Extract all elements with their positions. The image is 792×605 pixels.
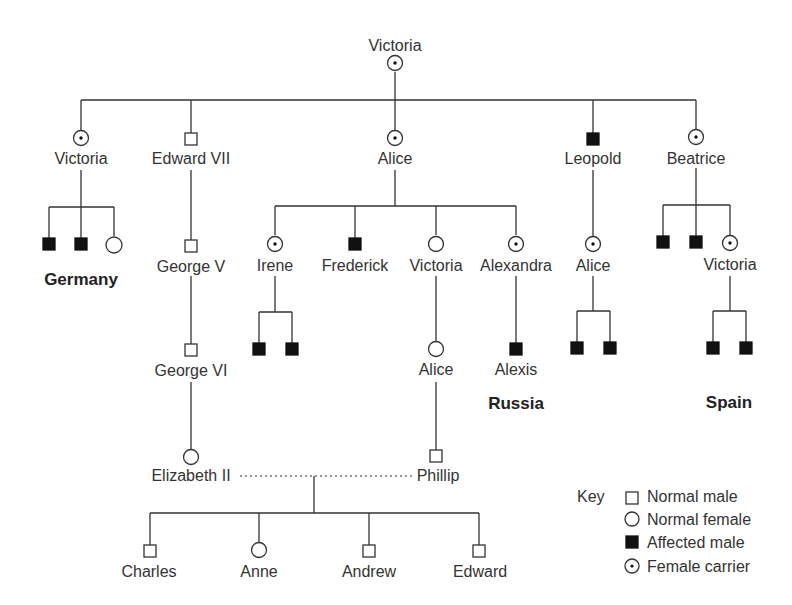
- label-frederick: Frederick: [322, 257, 390, 274]
- label-alexis: Alexis: [495, 361, 538, 378]
- irene-affected-male-2-symbol: [286, 343, 298, 355]
- person-george-vi-symbol: [185, 344, 197, 356]
- germany-normal-female-symbol: [106, 237, 122, 253]
- legend-normal-male-icon: [626, 492, 638, 504]
- person-alice-g1-symbol: [388, 131, 403, 146]
- germany-affected-male-1-symbol: [43, 238, 55, 250]
- region-spain: Spain: [706, 393, 752, 412]
- legend: Key Normal male Normal female Affected m…: [577, 488, 751, 575]
- spain-affected-male-1-symbol: [657, 236, 669, 248]
- label-charles: Charles: [121, 563, 176, 580]
- label-irene: Irene: [257, 257, 294, 274]
- legend-female-carrier-label: Female carrier: [647, 558, 751, 575]
- person-victoria-spain-symbol: [723, 236, 738, 251]
- person-frederick-symbol: [349, 238, 361, 250]
- label-alice-g3: Alice: [419, 361, 454, 378]
- person-phillip-symbol: [430, 450, 442, 462]
- person-alexis-symbol: [510, 343, 522, 355]
- label-george-v: George V: [157, 258, 226, 275]
- label-victoria-g2: Victoria: [409, 257, 462, 274]
- legend-affected-male-icon: [626, 536, 638, 548]
- spain-grandson-2-symbol: [740, 342, 752, 354]
- label-edward-vii: Edward VII: [152, 150, 230, 167]
- person-leopold-symbol: [587, 133, 599, 145]
- label-anne: Anne: [240, 563, 277, 580]
- label-phillip: Phillip: [417, 467, 460, 484]
- person-beatrice-symbol: [689, 130, 704, 145]
- person-alice-g2-symbol: [586, 237, 601, 252]
- pedigree-chart: Victoria Victoria Edward VII Alice Leopo…: [0, 0, 792, 605]
- person-alexandra-symbol: [509, 237, 524, 252]
- label-victoria-root: Victoria: [368, 37, 421, 54]
- legend-normal-female-icon: [625, 512, 639, 526]
- region-russia: Russia: [488, 394, 544, 413]
- person-victoria-root-symbol: [388, 56, 403, 71]
- alice-affected-male-2-symbol: [604, 342, 616, 354]
- label-edward: Edward: [453, 563, 507, 580]
- label-alice-g1: Alice: [378, 150, 413, 167]
- pedigree-svg: Victoria Victoria Edward VII Alice Leopo…: [0, 0, 792, 605]
- spain-affected-male-2-symbol: [690, 236, 702, 248]
- label-victoria-g1: Victoria: [54, 150, 107, 167]
- legend-normal-male-label: Normal male: [647, 488, 738, 505]
- region-germany: Germany: [44, 270, 118, 289]
- label-alexandra: Alexandra: [480, 257, 552, 274]
- legend-carrier-dot: [630, 564, 633, 567]
- alice-affected-male-1-symbol: [571, 342, 583, 354]
- person-victoria-g1-symbol: [74, 131, 89, 146]
- person-irene-symbol: [268, 237, 283, 252]
- germany-affected-male-2-symbol: [75, 238, 87, 250]
- person-edward-vii-symbol: [185, 133, 197, 145]
- person-victoria-g2-symbol: [429, 237, 444, 252]
- person-edward-symbol: [473, 545, 485, 557]
- label-leopold: Leopold: [565, 150, 622, 167]
- label-george-vi: George VI: [155, 362, 228, 379]
- legend-affected-male-label: Affected male: [647, 534, 745, 551]
- person-andrew-symbol: [363, 545, 375, 557]
- person-anne-symbol: [252, 543, 267, 558]
- legend-normal-female-label: Normal female: [647, 511, 751, 528]
- person-alice-g3-symbol: [429, 342, 444, 357]
- irene-affected-male-1-symbol: [253, 343, 265, 355]
- person-elizabeth-ii-symbol: [184, 450, 199, 465]
- label-elizabeth-ii: Elizabeth II: [151, 467, 230, 484]
- label-beatrice: Beatrice: [667, 150, 726, 167]
- spain-grandson-1-symbol: [707, 342, 719, 354]
- person-charles-symbol: [144, 545, 156, 557]
- person-george-v-symbol: [185, 240, 197, 252]
- legend-title: Key: [577, 488, 605, 505]
- label-alice-g2: Alice: [576, 257, 611, 274]
- label-victoria-spain: Victoria: [703, 256, 756, 273]
- label-andrew: Andrew: [342, 563, 397, 580]
